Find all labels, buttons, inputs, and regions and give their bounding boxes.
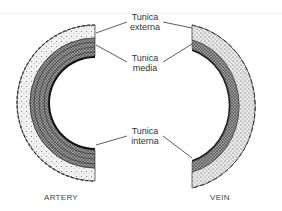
label-tunica-media: Tunica media	[120, 53, 170, 73]
caption-artery: ARTERY	[44, 193, 78, 202]
label-line: media	[120, 63, 170, 73]
vein-cross-section	[192, 25, 255, 188]
label-tunica-interna: Tunica interna	[120, 126, 170, 146]
label-line: Tunica	[120, 53, 170, 63]
label-line: Tunica	[120, 126, 170, 136]
label-line: interna	[120, 136, 170, 146]
label-line: externa	[120, 22, 170, 32]
label-line: Tunica	[120, 12, 170, 22]
caption-vein: VEIN	[210, 193, 230, 202]
label-tunica-externa: Tunica externa	[120, 12, 170, 32]
artery-cross-section	[17, 25, 95, 181]
